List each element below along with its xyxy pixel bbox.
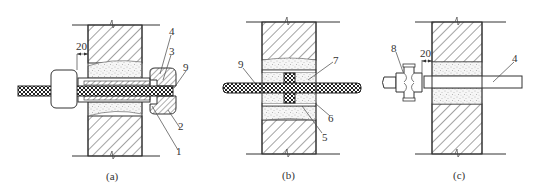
wall-lower <box>262 120 316 154</box>
wall-upper <box>432 22 482 62</box>
part-label-2: 2 <box>178 120 184 132</box>
left-nut <box>51 70 77 108</box>
dimension-label-a: 20 <box>76 40 88 52</box>
wall-upper <box>88 25 142 63</box>
part-label-5: 5 <box>322 131 328 143</box>
wall-lower <box>88 116 142 156</box>
caption-b: (b) <box>282 169 295 182</box>
part-label-4: 4 <box>169 25 175 37</box>
part-label-4: 4 <box>512 52 518 64</box>
wall-upper <box>262 22 316 60</box>
figure-c: 20 8 4 (c) <box>383 17 523 182</box>
wall-penetration-diagram: 20 4 3 9 2 1 (a) 9 <box>0 0 535 192</box>
figure-a: 20 4 3 9 2 1 (a) <box>18 20 189 183</box>
sand-fill-upper <box>432 62 482 76</box>
part-label-9: 9 <box>183 61 189 73</box>
sand-fill-upper <box>88 61 142 78</box>
sand-fill-lower <box>432 88 482 104</box>
gland-nut <box>150 68 176 86</box>
caption-c: (c) <box>453 169 466 182</box>
sand-fill-lower <box>262 106 316 120</box>
dimension-label-c: 20 <box>420 47 432 59</box>
part-label-8: 8 <box>391 42 397 54</box>
part-label-6: 6 <box>328 112 334 124</box>
caption-a: (a) <box>106 170 119 183</box>
part-label-1: 1 <box>176 145 182 157</box>
conduit <box>383 77 397 88</box>
part-label-3: 3 <box>169 45 175 57</box>
sand-fill-upper <box>262 58 316 70</box>
cable <box>18 86 173 96</box>
sand-fill-lower <box>88 102 142 116</box>
wall-lower <box>432 104 482 154</box>
pipe <box>424 76 522 88</box>
figure-b: 9 7 6 5 (b) <box>223 17 361 182</box>
cross-fitting <box>396 66 422 99</box>
part-label-9: 9 <box>238 58 244 70</box>
cable <box>223 83 361 93</box>
part-label-7: 7 <box>333 54 339 66</box>
